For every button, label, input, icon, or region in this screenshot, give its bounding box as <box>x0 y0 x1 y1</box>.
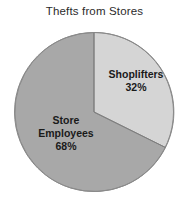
pie-label-store-employees-name-line1: Store <box>53 114 80 126</box>
pie-label-shoplifters-percent: 32% <box>101 81 171 94</box>
pie-label-store-employees: Store Employees 68% <box>24 114 108 153</box>
pie-label-shoplifters-name: Shoplifters <box>109 68 164 80</box>
pie-chart-graphic <box>0 0 189 216</box>
pie-label-store-employees-name-line2: Employees <box>24 127 108 140</box>
pie-chart-figure: Thefts from Stores Shoplifters 32% Store… <box>0 0 189 216</box>
pie-label-store-employees-percent: 68% <box>24 140 108 153</box>
pie-label-shoplifters: Shoplifters 32% <box>101 68 171 94</box>
